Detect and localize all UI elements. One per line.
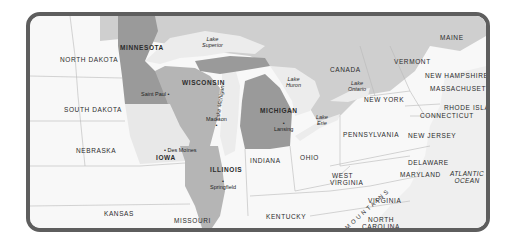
- label-pennsylvania: PENNSYLVANIA: [343, 131, 399, 138]
- ocean-line2: OCEAN: [450, 177, 484, 184]
- label-lake-superior: Lake Superior: [202, 36, 223, 48]
- city-des-moines-label: Des Moines: [167, 147, 196, 153]
- ocean-line1: ATLANTIC: [450, 170, 484, 177]
- label-new-hampshire: NEW HAMPSHIRE: [425, 72, 488, 79]
- label-kentucky: KENTUCKY: [266, 213, 306, 220]
- label-maine: MAINE: [440, 34, 464, 41]
- label-ohio: OHIO: [300, 154, 319, 161]
- city-saint-paul-label: Saint Paul: [141, 91, 166, 97]
- label-lake-huron: Lake Huron: [286, 76, 301, 88]
- label-maryland: MARYLAND: [400, 171, 441, 178]
- label-missouri: MISSOURI: [174, 217, 211, 224]
- label-vermont: VERMONT: [394, 58, 431, 65]
- label-lake-ontario: Lake Ontario: [348, 80, 366, 92]
- label-north-dakota: NORTH DAKOTA: [60, 56, 118, 63]
- label-michigan: MICHIGAN: [260, 107, 298, 114]
- map-frame: NORTH DAKOTA SOUTH DAKOTA NEBRASKA KANSA…: [26, 12, 490, 232]
- label-north-carolina-1: NORTH: [368, 216, 394, 223]
- city-lansing-label: Lansing: [274, 126, 293, 132]
- capital-dot-icon: •: [164, 147, 166, 153]
- label-new-york: NEW YORK: [364, 96, 404, 103]
- label-massachusetts: MASSACHUSETTS: [430, 85, 490, 92]
- label-delaware: DELAWARE: [408, 159, 449, 166]
- label-nebraska: NEBRASKA: [76, 147, 116, 154]
- label-south-dakota: SOUTH DAKOTA: [64, 106, 122, 113]
- city-saint-paul: Saint Paul •: [141, 91, 170, 97]
- label-west-virginia-2: VIRGINIA: [330, 179, 363, 186]
- label-kansas: KANSAS: [104, 210, 134, 217]
- label-connecticut: CONNECTICUT: [420, 112, 474, 119]
- city-springfield: •Springfield: [210, 178, 236, 190]
- lake-erie-line2: Erie: [316, 120, 328, 126]
- label-west-virginia-1: WEST: [332, 172, 353, 179]
- label-atlantic-ocean: ATLANTIC OCEAN: [450, 170, 484, 184]
- label-new-jersey: NEW JERSEY: [408, 132, 456, 139]
- label-north-carolina-2: CAROLINA: [362, 223, 400, 230]
- label-lake-erie: Lake Erie: [316, 114, 328, 126]
- lake-ontario-line2: Ontario: [348, 86, 366, 92]
- label-rhode-island: RHODE ISLAND: [444, 104, 490, 111]
- label-iowa: IOWA: [156, 154, 176, 161]
- capital-dot-icon: •: [206, 122, 227, 128]
- label-illinois: ILLINOIS: [210, 166, 242, 173]
- city-madison: Madison•: [206, 116, 227, 128]
- city-springfield-label: Springfield: [210, 184, 236, 190]
- map-canvas: [30, 16, 486, 228]
- label-minnesota: MINNESOTA: [120, 44, 164, 51]
- lake-superior-line2: Superior: [202, 42, 223, 48]
- city-des-moines: • Des Moines: [164, 147, 197, 153]
- lake-huron-line2: Huron: [286, 82, 301, 88]
- city-lansing: •Lansing: [274, 120, 293, 132]
- label-canada: CANADA: [330, 66, 361, 73]
- label-indiana: INDIANA: [250, 157, 281, 164]
- capital-dot-icon: •: [168, 91, 170, 97]
